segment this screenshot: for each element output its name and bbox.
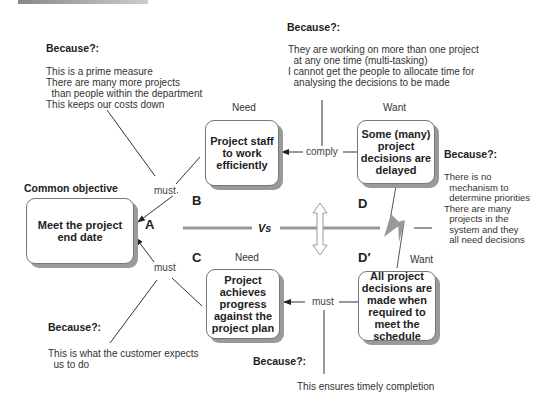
connector-c-dprime-must: must (311, 296, 335, 307)
connector-a-c-must: must (153, 262, 177, 273)
box-d-want: Some (many) project decisions are delaye… (357, 120, 435, 184)
box-d-heading: Want (383, 102, 406, 113)
assumption-a-b-heading: Because?: (46, 42, 99, 54)
assumption-a-c-heading: Because?: (48, 321, 101, 333)
box-dprime-heading: Want (410, 254, 433, 265)
connector-a-b-must: must (153, 185, 177, 196)
box-c-need: Project achieves progress against the pr… (206, 269, 280, 339)
common-objective-label: Common objective (24, 182, 118, 194)
letter-b: B (192, 193, 201, 208)
box-c-heading: Need (235, 252, 259, 263)
assumption-d-dprime-heading: Because?: (444, 148, 497, 160)
vs-label: Vs (258, 222, 271, 234)
assumption-a-c-text: This is what the customer expects us to … (48, 348, 199, 370)
connector-b-d-comply: comply (305, 146, 339, 157)
letter-a: A (145, 217, 154, 232)
assumption-c-dprime-heading: Because?: (253, 355, 306, 367)
letter-d: D (358, 196, 367, 211)
box-a-objective: Meet the project end date (26, 198, 134, 264)
box-b-heading: Need (232, 102, 256, 113)
assumption-b-d-text: They are working on more than one projec… (288, 44, 479, 88)
assumption-c-dprime-text: This ensures timely completion (297, 381, 434, 392)
assumption-b-d-heading: Because?: (287, 21, 340, 33)
assumption-d-dprime-text: There is no mechanism to determine prior… (444, 172, 530, 246)
assumption-a-b-text: This is a prime measure There are many m… (46, 66, 202, 110)
box-b-need: Project staff to work efficiently (205, 120, 279, 186)
letter-dprime: D′ (358, 250, 371, 265)
box-dprime-want: All project decisions are made when requ… (358, 271, 436, 341)
letter-c: C (192, 250, 201, 265)
